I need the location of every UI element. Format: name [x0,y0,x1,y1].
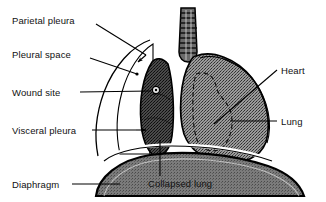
diaphragm [96,153,304,196]
label-lung: Lung [281,117,303,127]
label-wound-site: Wound site [12,88,60,98]
anatomy-illustration [0,0,326,202]
label-pleural-space: Pleural space [12,50,71,60]
label-collapsed-lung: Collapsed lung [148,179,212,189]
figure-canvas: Parietal pleura Pleural space Wound site… [0,0,326,202]
label-diaphragm: Diaphragm [12,180,59,190]
trachea [179,8,197,62]
label-visceral-pleura: Visceral pleura [12,126,76,136]
wound-marker [152,86,159,93]
label-parietal-pleura: Parietal pleura [12,16,75,26]
label-heart: Heart [281,66,305,76]
leader-parietal [96,24,146,55]
